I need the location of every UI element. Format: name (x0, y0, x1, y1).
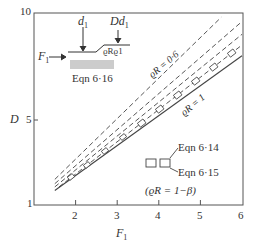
y-tick-10: 10 (20, 5, 31, 17)
inset-Dd1-label: Dd1 (110, 14, 129, 30)
inset-F1-label: F1 (38, 49, 49, 65)
channel-bed (70, 60, 114, 69)
x-tick-2: 2 (72, 209, 78, 221)
chart-canvas (0, 0, 253, 243)
inset-rho-label: ϱRϱ1 (103, 46, 123, 56)
eqn-6-16-label: Eqn 6·16 (72, 72, 113, 84)
eqn-6-15-label: Eqn 6·15 (178, 166, 219, 178)
inset-Dd1-main: Dd (110, 14, 125, 28)
inset-F1-sub: 1 (45, 56, 49, 65)
y-axis-title: D (10, 112, 19, 127)
x-tick-4: 4 (155, 209, 161, 221)
y-tick-5: 5 (26, 113, 32, 125)
eqn-6-14-label: Eqn 6·14 (178, 141, 219, 153)
x-tick-5: 5 (197, 209, 203, 221)
inset-Dd1-sub: 1 (125, 21, 129, 30)
x-axis-title: F1 (116, 226, 127, 242)
y-tick-1: 1 (27, 197, 33, 209)
x-tick-6: 6 (238, 209, 244, 221)
x-axis-title-sub: 1 (123, 233, 127, 242)
rho-beta-label: (ϱR = 1−β) (145, 184, 196, 196)
x-tick-3: 3 (114, 209, 120, 221)
inset-d1-label: d1 (78, 14, 88, 30)
inset-d1-sub: 1 (84, 21, 88, 30)
legend-squares (146, 148, 178, 172)
